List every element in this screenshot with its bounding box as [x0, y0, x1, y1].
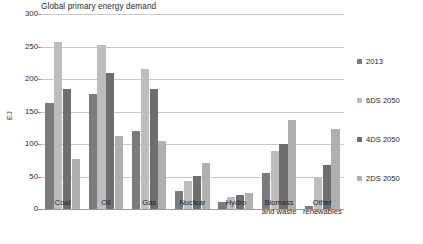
x-axis-label-line: renewables	[295, 208, 350, 217]
y-tick-mark-0	[38, 209, 41, 210]
bar	[150, 89, 158, 209]
bar	[97, 45, 105, 209]
legend-swatch-icon	[357, 137, 362, 142]
legend-swatch-icon	[357, 59, 362, 64]
legend-label: 6DS 2050	[366, 96, 400, 105]
bar	[132, 131, 140, 209]
legend-swatch-icon	[357, 176, 362, 181]
plot-area	[41, 14, 344, 209]
y-tick-label-50: 50	[4, 172, 38, 181]
bar-chart: Global primary energy demand EJ 05010015…	[0, 0, 423, 244]
chart-title: Global primary energy demand	[41, 2, 156, 11]
bar-group	[171, 14, 214, 209]
bar-group	[214, 14, 257, 209]
legend-item[interactable]: 4DS 2050	[357, 135, 400, 144]
y-tick-label-300: 300	[4, 9, 38, 18]
bar	[89, 94, 97, 209]
bar-group	[84, 14, 127, 209]
bar-group	[41, 14, 84, 209]
bar	[141, 69, 149, 209]
bar	[331, 129, 339, 209]
bar	[45, 103, 53, 209]
legend-item[interactable]: 2DS 2050	[357, 174, 400, 183]
bar-group	[301, 14, 344, 209]
y-tick-label-150: 150	[4, 107, 38, 116]
y-tick-label-250: 250	[4, 42, 38, 51]
y-tick-label-100: 100	[4, 139, 38, 148]
y-tick-label-0: 0	[4, 204, 38, 213]
bar	[115, 136, 123, 209]
legend-label: 4DS 2050	[366, 135, 400, 144]
legend-label: 2DS 2050	[366, 174, 400, 183]
bar	[63, 89, 71, 209]
y-tick-label-200: 200	[4, 74, 38, 83]
legend-item[interactable]: 6DS 2050	[357, 96, 400, 105]
legend-item[interactable]: 2013	[357, 57, 383, 66]
x-axis-label: Otherrenewables	[295, 199, 350, 216]
bar-group	[257, 14, 300, 209]
legend-label: 2013	[366, 57, 383, 66]
legend-swatch-icon	[357, 98, 362, 103]
bar-group	[128, 14, 171, 209]
bar	[106, 73, 114, 209]
bar	[54, 42, 62, 209]
bar	[288, 120, 296, 209]
